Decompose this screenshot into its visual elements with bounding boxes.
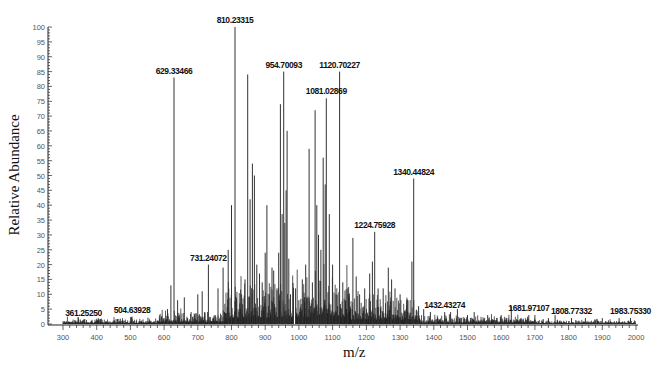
svg-text:1081.02869: 1081.02869 [306, 86, 348, 96]
svg-text:1900: 1900 [594, 333, 611, 342]
svg-text:90: 90 [37, 53, 45, 62]
svg-text:600: 600 [158, 333, 171, 342]
svg-text:75: 75 [37, 97, 45, 106]
svg-text:2000: 2000 [628, 333, 645, 342]
svg-text:60: 60 [37, 142, 45, 151]
svg-text:0: 0 [41, 320, 45, 329]
svg-text:80: 80 [37, 82, 45, 91]
svg-text:1400: 1400 [425, 333, 442, 342]
svg-text:15: 15 [37, 275, 45, 284]
svg-text:1681.97107: 1681.97107 [508, 303, 550, 313]
svg-text:700: 700 [192, 333, 205, 342]
svg-text:55: 55 [37, 157, 45, 166]
svg-text:300: 300 [57, 333, 70, 342]
svg-text:100: 100 [32, 23, 45, 32]
svg-text:45: 45 [37, 186, 45, 195]
svg-text:1100: 1100 [325, 333, 341, 342]
svg-text:1700: 1700 [527, 333, 544, 342]
svg-text:1224.75928: 1224.75928 [354, 220, 396, 230]
svg-text:361.25250: 361.25250 [65, 308, 102, 318]
svg-text:1600: 1600 [493, 333, 510, 342]
svg-text:400: 400 [90, 333, 103, 342]
svg-text:1432.43274: 1432.43274 [424, 300, 466, 310]
svg-text:1120.70227: 1120.70227 [319, 60, 360, 70]
svg-text:1500: 1500 [459, 333, 476, 342]
x-axis-label: m/z [343, 344, 366, 361]
svg-text:35: 35 [37, 216, 45, 225]
svg-text:1808.77332: 1808.77332 [551, 306, 593, 316]
svg-text:40: 40 [37, 201, 45, 210]
svg-text:50: 50 [37, 172, 45, 181]
svg-text:70: 70 [37, 112, 45, 121]
y-axis-label: Relative Abundance [6, 165, 23, 185]
svg-text:1200: 1200 [358, 333, 375, 342]
svg-text:5: 5 [41, 305, 45, 314]
svg-text:629.33466: 629.33466 [156, 66, 193, 76]
svg-text:85: 85 [37, 68, 45, 77]
axes: 0510152025303540455055606570758085909510… [32, 23, 644, 342]
svg-text:1340.44824: 1340.44824 [393, 167, 435, 177]
svg-text:30: 30 [37, 231, 45, 240]
svg-text:500: 500 [124, 333, 137, 342]
peak-labels: 361.25250504.63928629.33466731.24072810.… [65, 15, 651, 318]
svg-text:504.63928: 504.63928 [114, 305, 151, 315]
noise-layer [63, 264, 636, 324]
mass-spectrum-chart: 361.25250504.63928629.33466731.24072810.… [0, 0, 671, 371]
svg-text:1000: 1000 [291, 333, 308, 342]
svg-text:810.23315: 810.23315 [217, 15, 254, 25]
svg-text:10: 10 [37, 290, 45, 299]
svg-text:65: 65 [37, 127, 45, 136]
svg-text:1300: 1300 [392, 333, 409, 342]
svg-text:25: 25 [37, 246, 45, 255]
svg-text:20: 20 [37, 261, 45, 270]
svg-text:800: 800 [225, 333, 238, 342]
svg-text:1800: 1800 [560, 333, 577, 342]
svg-text:1983.75330: 1983.75330 [610, 306, 652, 316]
svg-text:900: 900 [259, 333, 272, 342]
svg-text:731.24072: 731.24072 [190, 253, 227, 263]
svg-text:954.70093: 954.70093 [265, 60, 302, 70]
svg-text:95: 95 [37, 38, 45, 47]
